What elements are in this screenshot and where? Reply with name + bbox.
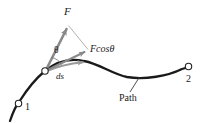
projection-line — [69, 26, 89, 50]
force-label: F — [64, 6, 71, 17]
physics-work-diagram: F θ Fcosθ ds Path 1 2 — [0, 0, 205, 123]
point-1-label: 1 — [25, 102, 30, 112]
diagram-canvas — [0, 0, 205, 123]
origin-marker — [42, 68, 48, 74]
displacement-label: ds — [56, 72, 64, 81]
path-leader-line — [130, 77, 140, 92]
path-curve — [10, 60, 189, 121]
force-component-label: Fcosθ — [90, 44, 114, 54]
point-1-marker — [15, 100, 21, 106]
point-2-marker — [185, 63, 191, 69]
point-2-label: 2 — [186, 74, 191, 84]
path-label: Path — [119, 93, 137, 103]
angle-label: θ — [54, 46, 59, 56]
